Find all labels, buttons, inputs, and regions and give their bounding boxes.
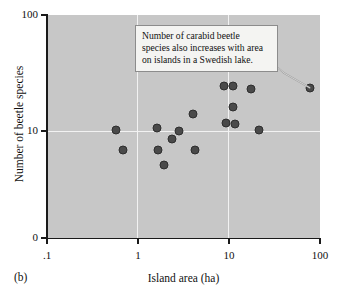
data-point — [188, 110, 197, 119]
x-tick-0.1 — [46, 238, 48, 244]
annotation-textbox: Number of carabid beetle species also in… — [135, 25, 278, 72]
annotation-line-2: species also increases with area — [142, 42, 272, 54]
x-tick-1 — [137, 238, 139, 244]
data-point — [118, 145, 127, 154]
data-point — [306, 83, 315, 92]
y-tick-label-100: 100 — [0, 9, 38, 20]
gridline-y-10 — [47, 131, 320, 132]
y-tick-10 — [41, 130, 47, 132]
data-point — [152, 124, 161, 133]
y-axis-title: Number of beetle species — [13, 44, 25, 204]
y-tick-label-0: 0 — [0, 232, 38, 243]
figure-panel-b: 100 10 0 .1 1 10 100 Number of beetle sp… — [0, 0, 337, 288]
data-point — [153, 146, 162, 155]
annotation-line-1: Number of carabid beetle — [142, 30, 272, 42]
data-point — [255, 126, 264, 135]
panel-label: (b) — [14, 271, 27, 283]
data-point — [174, 127, 183, 136]
data-point — [221, 118, 230, 127]
data-point — [190, 146, 199, 155]
data-point — [219, 81, 228, 90]
data-point — [160, 160, 169, 169]
y-tick-100 — [41, 14, 47, 16]
data-point — [228, 81, 237, 90]
y-axis-line — [46, 14, 48, 239]
x-tick-10 — [228, 238, 230, 244]
data-point — [228, 103, 237, 112]
x-tick-label-100: 100 — [312, 250, 329, 261]
x-axis-title: Island area (ha) — [47, 272, 320, 284]
annotation-line-3: on islands in a Swedish lake. — [142, 54, 272, 66]
x-tick-label-0.1: .1 — [43, 250, 51, 261]
x-tick-label-1: 1 — [135, 250, 141, 261]
data-point — [230, 120, 239, 129]
x-tick-100 — [319, 238, 321, 244]
data-point — [247, 85, 256, 94]
x-axis-line — [46, 238, 321, 240]
data-point — [112, 126, 121, 135]
data-point — [167, 134, 176, 143]
x-tick-label-10: 10 — [224, 250, 235, 261]
